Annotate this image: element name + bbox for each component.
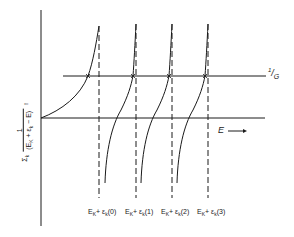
curve-branch-2: [141, 24, 172, 183]
curve-branch-3: [177, 24, 208, 183]
asymptote-label-1: EK+ εk(1): [125, 208, 153, 217]
asymptotes: [99, 24, 208, 198]
y-axis-label: Σk 1 (EK + εk − E) ↑: [12, 92, 38, 172]
y-axis-arrow-icon: ↑: [21, 102, 28, 106]
diagram-canvas: [0, 0, 294, 237]
asymptote-label-2: EK+ εk(2): [161, 208, 189, 217]
curve-branch-1: [105, 24, 136, 183]
e-axis-label: E: [218, 125, 224, 135]
curve-branch-0: [41, 26, 99, 118]
e-arrow-head: [243, 129, 247, 133]
curves: [41, 24, 208, 183]
sum-symbol: Σk: [20, 155, 29, 162]
y-axis-fraction: 1 (EK + εk − E): [16, 109, 34, 152]
asymptote-label-3: EK+ εk(3): [197, 208, 225, 217]
one-over-g-label: 1/G: [268, 67, 279, 80]
asymptote-label-0: EK+ εk(0): [88, 208, 116, 217]
